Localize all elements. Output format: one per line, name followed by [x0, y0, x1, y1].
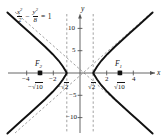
equation-right-side: 1: [47, 12, 52, 21]
x-tick-label-sqrt2: √2: [88, 84, 96, 91]
y-tick-label-5: 5: [72, 47, 76, 54]
focus-marker-f1: [118, 71, 123, 76]
x-tick-label-2: 2: [105, 76, 109, 83]
x-tick-label--sqrt10: −√10: [28, 84, 43, 91]
equation-denominator-8: 8: [33, 16, 39, 24]
equation-annotation: x2 2 − y2 8 = 1: [16, 8, 52, 24]
y-tick-label-10: 10: [68, 25, 75, 32]
x-tick-label--sqrt2: −√2: [57, 84, 69, 91]
equation-fraction-y: y2 8: [32, 8, 39, 24]
x-tick-label-sqrt10: √10: [114, 84, 125, 91]
focus-label-f1: F1: [115, 60, 122, 69]
equation-numerator-y: y2: [32, 8, 39, 16]
focus-label-f2: F2: [35, 60, 42, 69]
equation-equals-sign: =: [40, 12, 45, 21]
y-tick-label--5: −5: [69, 92, 76, 99]
x-tick-label--4: −4: [22, 76, 29, 83]
equation-fraction-x: x2 2: [16, 8, 23, 24]
equation-minus-sign: −: [25, 12, 30, 21]
x-tick-label--2: −2: [49, 76, 56, 83]
equation-denominator-2: 2: [17, 16, 23, 24]
x-axis-label: x: [157, 69, 160, 77]
equation-numerator-x: x2: [16, 8, 23, 16]
y-tick-label--10: −10: [66, 114, 77, 121]
focus-marker-f2: [38, 71, 43, 76]
x-tick-label-4: 4: [132, 76, 136, 83]
y-axis-label: y: [81, 5, 84, 13]
